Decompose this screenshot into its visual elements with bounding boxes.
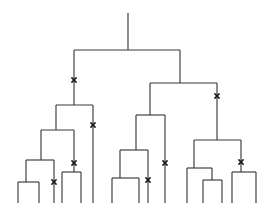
tree-canvas — [0, 0, 272, 203]
figure-background — [0, 0, 272, 203]
phylogenetic-tree-figure — [0, 0, 272, 203]
